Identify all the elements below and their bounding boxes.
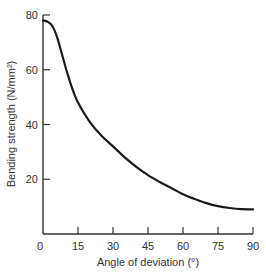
y-tick-label: 40 xyxy=(26,119,38,131)
bending-strength-chart: 20406080 0153045607590 Angle of deviatio… xyxy=(0,0,266,272)
x-tick-label: 75 xyxy=(212,240,224,252)
y-axis-label: Bending strength (N/mm²) xyxy=(5,61,17,188)
x-tick-label: 15 xyxy=(72,240,84,252)
y-tick-label: 20 xyxy=(26,173,38,185)
bending-strength-curve xyxy=(43,21,253,210)
x-tick-label: 90 xyxy=(247,240,259,252)
y-tick-label: 60 xyxy=(26,64,38,76)
x-tick-label: 0 xyxy=(37,240,43,252)
y-axis-ticks: 20406080 xyxy=(26,9,50,185)
y-tick-label: 80 xyxy=(26,9,38,21)
x-tick-label: 60 xyxy=(177,240,189,252)
axes xyxy=(43,15,253,234)
x-axis-ticks: 0153045607590 xyxy=(37,227,259,252)
x-tick-label: 45 xyxy=(142,240,154,252)
x-axis-label: Angle of deviation (°) xyxy=(97,256,199,268)
x-tick-label: 30 xyxy=(107,240,119,252)
